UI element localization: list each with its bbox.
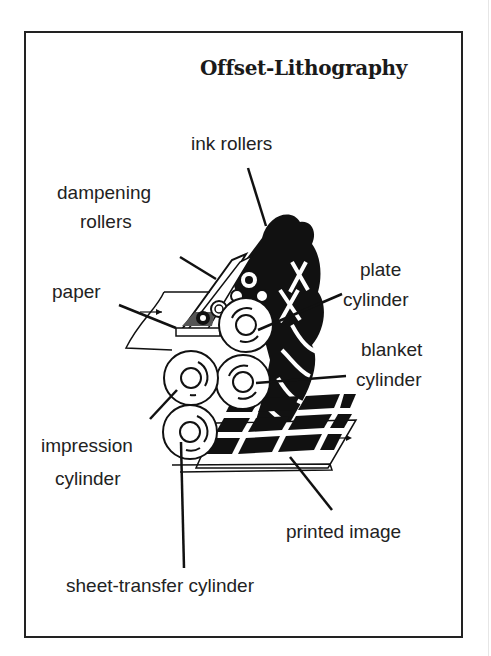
label-impression-line2: cylinder — [55, 465, 120, 493]
press-illustration — [0, 0, 491, 656]
label-paper: paper — [52, 278, 101, 306]
sheet-transfer-cylinder-icon — [163, 405, 217, 459]
label-sheet-transfer: sheet-transfer cylinder — [66, 572, 254, 600]
label-impression-line1: impression — [41, 432, 133, 460]
label-dampening-line1: dampening — [57, 179, 151, 207]
label-plate-line2: cylinder — [343, 286, 408, 314]
label-dampening-line2: rollers — [80, 208, 132, 236]
label-blanket-line1: blanket — [361, 336, 422, 364]
plate-cylinder-icon — [219, 298, 273, 352]
label-plate-line1: plate — [360, 256, 401, 284]
label-ink-rollers: ink rollers — [191, 130, 272, 158]
label-printed-image: printed image — [286, 518, 401, 546]
label-blanket-line2: cylinder — [356, 366, 421, 394]
